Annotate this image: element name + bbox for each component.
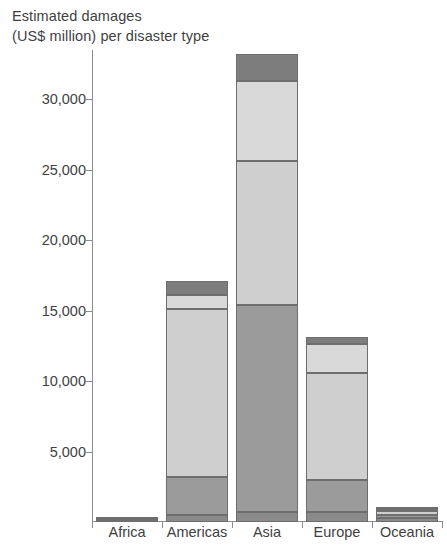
y-axis-tick-label: 30,000	[8, 91, 86, 107]
bar-segment	[306, 512, 368, 522]
bar-segment	[306, 480, 368, 512]
y-axis-tick-label: 5,000	[8, 444, 86, 460]
x-axis-label-europe: Europe	[314, 524, 361, 540]
x-axis-label-africa: Africa	[108, 524, 145, 540]
chart-title-line-1: Estimated damages	[12, 6, 312, 26]
y-axis-labels: 5,00010,00015,00020,00025,00030,000	[0, 50, 86, 522]
bar-segment	[166, 309, 228, 477]
bar-asia	[236, 54, 298, 522]
stacked-bar-chart: Estimated damages (US$ million) per disa…	[0, 0, 447, 550]
y-axis-tick-label: 25,000	[8, 162, 86, 178]
bar-segment	[236, 81, 298, 161]
bar-africa	[96, 519, 158, 522]
x-axis-labels: AfricaAmericasAsiaEuropeOceania	[92, 524, 444, 550]
bar-segment	[236, 512, 298, 522]
y-axis-tick	[86, 452, 93, 453]
bar-segment	[166, 515, 228, 522]
x-axis-label-americas: Americas	[167, 524, 227, 540]
chart-title-line-2: (US$ million) per disaster type	[12, 26, 312, 46]
bar-segment	[166, 295, 228, 309]
y-axis-tick	[86, 170, 93, 171]
x-axis-label-oceania: Oceania	[380, 524, 434, 540]
y-axis-tick-label: 10,000	[8, 373, 86, 389]
y-axis-tick-label: 20,000	[8, 232, 86, 248]
plot-area	[92, 50, 442, 522]
bar-segment	[166, 281, 228, 295]
bar-segment	[306, 373, 368, 480]
bar-segment	[306, 337, 368, 344]
bar-segment	[166, 477, 228, 515]
bar-segment	[236, 305, 298, 512]
y-axis-tick	[86, 240, 93, 241]
bar-oceania	[376, 509, 438, 522]
bar-segment	[236, 161, 298, 305]
bar-europe	[306, 337, 368, 522]
bar-segment	[306, 344, 368, 372]
y-axis-tick-label: 15,000	[8, 303, 86, 319]
bar-segment	[236, 54, 298, 81]
bar-segment	[376, 507, 438, 509]
bar-segment	[376, 518, 438, 522]
bar-segment	[376, 515, 438, 518]
x-axis-label-asia: Asia	[253, 524, 281, 540]
bar-americas	[166, 295, 228, 522]
bar-segment	[96, 517, 158, 519]
y-axis-tick	[86, 99, 93, 100]
y-axis-tick	[86, 381, 93, 382]
chart-title: Estimated damages (US$ million) per disa…	[12, 6, 312, 46]
y-axis-tick	[86, 311, 93, 312]
bar-segment	[376, 511, 438, 515]
